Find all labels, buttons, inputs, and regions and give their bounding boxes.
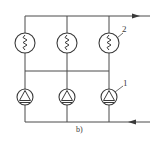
arrow-left-icon: [128, 120, 136, 125]
arrow-right-icon: [132, 14, 140, 19]
pump-2: [59, 89, 75, 105]
pump-3: [101, 89, 117, 105]
heater-2: [57, 33, 77, 53]
heater-label: 2: [122, 24, 127, 34]
figure-caption: b): [76, 125, 83, 134]
heater-3: [99, 33, 119, 53]
pump-leader-line: [115, 86, 123, 92]
pump-label: 1: [123, 78, 128, 88]
pump-1: [17, 89, 33, 105]
hydraulic-schematic: 2 1 b): [0, 0, 157, 143]
heater-1: [15, 33, 35, 53]
